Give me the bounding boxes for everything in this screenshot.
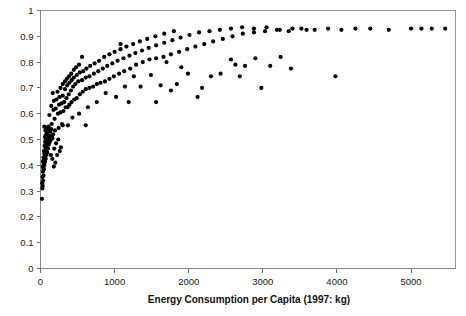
data-point (153, 34, 157, 38)
data-point (115, 59, 119, 63)
data-point (138, 85, 142, 89)
data-point (218, 28, 222, 32)
data-point (61, 94, 65, 98)
data-point (193, 45, 197, 49)
data-point (88, 64, 92, 68)
data-point (58, 149, 62, 153)
data-point (339, 28, 343, 32)
data-point (353, 26, 357, 30)
data-point (54, 106, 58, 110)
data-point (196, 95, 200, 99)
data-point (141, 60, 145, 64)
data-point (84, 87, 88, 91)
data-point (230, 34, 234, 38)
data-point (50, 122, 54, 126)
data-point (259, 86, 263, 90)
data-point (229, 57, 233, 61)
data-point (221, 37, 225, 41)
data-point (63, 87, 67, 91)
data-point (162, 32, 166, 36)
data-point (158, 83, 162, 87)
data-point (49, 104, 53, 108)
data-point (50, 157, 54, 161)
data-point (117, 72, 121, 76)
data-point (289, 66, 293, 70)
data-point (131, 42, 135, 46)
data-point (185, 47, 189, 51)
data-point (93, 61, 97, 65)
data-point (326, 26, 330, 30)
data-point (110, 61, 114, 65)
data-point (62, 100, 66, 104)
data-point (67, 92, 71, 96)
data-point (170, 38, 174, 42)
data-point (58, 86, 62, 90)
y-tick-label: 0.7 (20, 82, 33, 93)
data-point (112, 74, 116, 78)
data-point (387, 28, 391, 32)
data-point (164, 60, 168, 64)
data-point (75, 96, 79, 100)
data-point (77, 112, 81, 116)
data-point (118, 42, 122, 46)
data-point (92, 72, 96, 76)
data-point (278, 28, 282, 32)
data-point (154, 100, 158, 104)
x-tick-label: 0 (38, 276, 43, 287)
data-point (69, 88, 73, 92)
data-point (368, 26, 372, 30)
data-point (287, 29, 291, 33)
data-point (61, 109, 65, 113)
data-point (49, 153, 53, 157)
data-point (114, 95, 118, 99)
data-point (80, 55, 84, 59)
data-point (443, 26, 447, 30)
data-point (95, 100, 99, 104)
y-axis-ticks: 00.10.20.30.40.50.60.70.80.91 (20, 5, 40, 274)
data-point (64, 96, 68, 100)
data-point (47, 113, 51, 117)
data-point (154, 56, 158, 60)
data-point (175, 82, 179, 86)
data-point (66, 123, 70, 127)
data-point (122, 69, 126, 73)
data-point (147, 57, 151, 61)
data-point (263, 29, 267, 33)
data-point (252, 30, 256, 34)
data-point (127, 54, 131, 58)
y-tick-label: 0.3 (20, 186, 33, 197)
data-point (128, 66, 132, 70)
data-point (207, 29, 211, 33)
data-point (140, 48, 144, 52)
data-point (253, 56, 257, 60)
data-point (145, 37, 149, 41)
data-point (252, 26, 256, 30)
data-point (40, 197, 44, 201)
data-point (299, 26, 303, 30)
data-point (162, 41, 166, 45)
data-point (209, 74, 213, 78)
data-point (96, 69, 100, 73)
x-axis-ticks: 010002000300040005000 (38, 269, 422, 287)
data-point (56, 137, 60, 141)
data-point (243, 64, 247, 68)
data-point (123, 85, 127, 89)
x-tick-label: 3000 (252, 276, 273, 287)
data-point (101, 66, 105, 70)
data-point (84, 75, 88, 79)
data-point (53, 161, 57, 165)
chart-root: 010002000300040005000 00.10.20.30.40.50.… (0, 0, 466, 316)
data-point (76, 79, 80, 83)
data-point (313, 28, 317, 32)
data-point (197, 30, 201, 34)
data-point (240, 25, 244, 29)
data-point (304, 28, 308, 32)
data-point (50, 136, 54, 140)
y-tick-label: 1 (28, 5, 33, 16)
data-point (107, 77, 111, 81)
data-point (132, 74, 136, 78)
data-point (169, 88, 173, 92)
data-point (87, 74, 91, 78)
x-tick-label: 2000 (178, 276, 199, 287)
scatter-chart: 010002000300040005000 00.10.20.30.40.50.… (0, 0, 466, 316)
